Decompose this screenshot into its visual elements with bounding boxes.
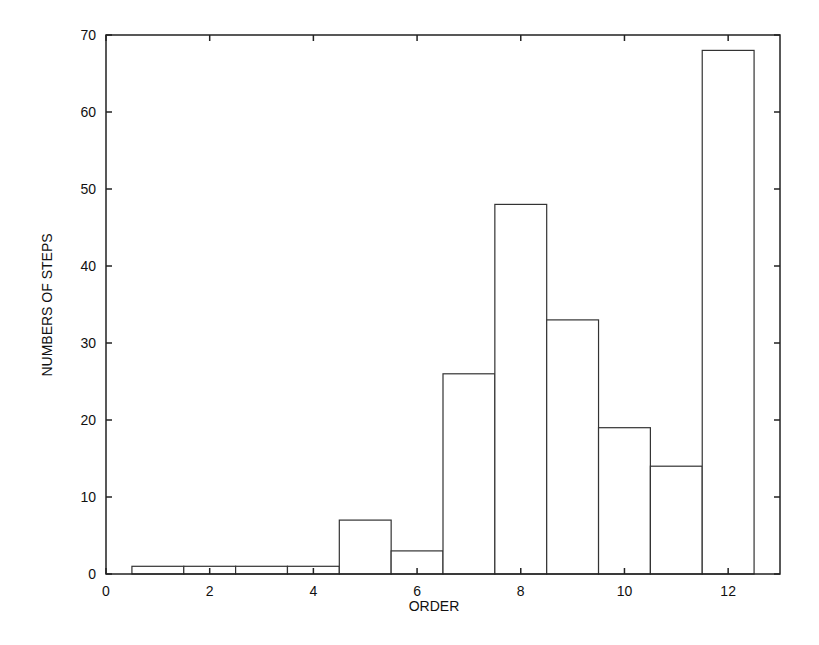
bar-order-11 bbox=[650, 466, 702, 574]
bar-order-12 bbox=[702, 50, 754, 574]
x-tick-label: 0 bbox=[102, 583, 110, 599]
y-tick-label: 10 bbox=[80, 489, 96, 505]
bar-order-10 bbox=[599, 428, 651, 574]
y-tick-label: 0 bbox=[88, 566, 96, 582]
bar-order-8 bbox=[495, 204, 547, 574]
bars bbox=[132, 50, 754, 574]
x-tick-label: 8 bbox=[517, 583, 525, 599]
y-tick-label: 20 bbox=[80, 412, 96, 428]
x-axis-title: ORDER bbox=[409, 598, 460, 614]
y-tick-label: 30 bbox=[80, 335, 96, 351]
y-tick-label: 40 bbox=[80, 258, 96, 274]
bar-order-3 bbox=[236, 566, 288, 574]
bar-order-1 bbox=[132, 566, 184, 574]
bar-order-9 bbox=[547, 320, 599, 574]
y-tick-label: 70 bbox=[80, 27, 96, 43]
bar-order-5 bbox=[339, 520, 391, 574]
histogram-chart: 024681012010203040506070 ORDER NUMBERS O… bbox=[0, 0, 819, 645]
x-tick-label: 10 bbox=[617, 583, 633, 599]
x-tick-label: 4 bbox=[309, 583, 317, 599]
x-tick-label: 6 bbox=[413, 583, 421, 599]
y-axis-title: NUMBERS OF STEPS bbox=[39, 233, 55, 376]
bar-order-7 bbox=[443, 374, 495, 574]
x-tick-label: 12 bbox=[720, 583, 736, 599]
x-tick-label: 2 bbox=[206, 583, 214, 599]
y-tick-label: 60 bbox=[80, 104, 96, 120]
y-tick-label: 50 bbox=[80, 181, 96, 197]
